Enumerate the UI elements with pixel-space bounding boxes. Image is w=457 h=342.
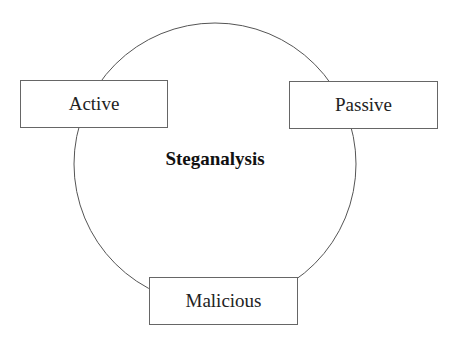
center-label: Steganalysis (115, 148, 315, 170)
node-active: Active (20, 80, 168, 128)
node-label: Active (69, 93, 120, 115)
node-passive: Passive (289, 81, 438, 129)
node-label: Passive (335, 94, 392, 116)
node-label: Malicious (186, 290, 262, 312)
node-malicious: Malicious (149, 277, 298, 325)
